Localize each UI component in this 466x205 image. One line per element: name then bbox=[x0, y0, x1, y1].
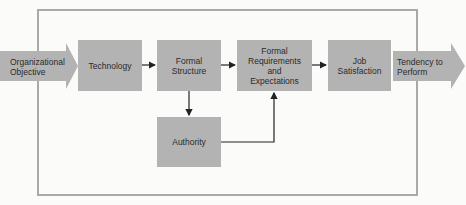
arrow-authority-to-requirements bbox=[221, 93, 274, 142]
connector-lines bbox=[0, 0, 466, 205]
